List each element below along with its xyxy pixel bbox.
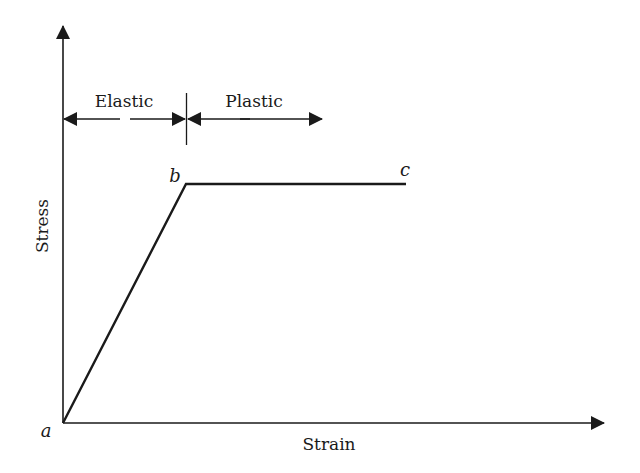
point-a-label: a	[41, 420, 52, 441]
point-c-label: c	[400, 159, 410, 180]
stress-strain-diagram: Elastic Plastic a b c Strain Stress	[0, 0, 640, 473]
elastic-label: Elastic	[95, 91, 154, 111]
stress-strain-curve	[63, 184, 406, 423]
y-axis-label: Stress	[32, 199, 52, 253]
diagram-canvas: Elastic Plastic a b c Strain Stress	[0, 0, 640, 473]
plastic-label: Plastic	[225, 91, 283, 111]
point-b-label: b	[169, 165, 181, 186]
x-axis-label: Strain	[302, 434, 355, 454]
